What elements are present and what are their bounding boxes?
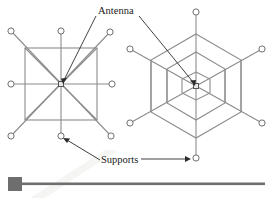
- support-node: [107, 29, 113, 35]
- support-node: [259, 46, 265, 52]
- support-node: [193, 9, 199, 15]
- hexagon-spoke-nw: [130, 49, 196, 86]
- hexagon-spoke-ne: [196, 49, 262, 86]
- support-node: [108, 133, 114, 139]
- supports-label: Supports: [101, 154, 138, 165]
- support-node: [193, 155, 199, 161]
- rule-bar: [22, 183, 265, 186]
- left-diagram-square-layout: [8, 28, 115, 139]
- support-node: [127, 120, 133, 126]
- rule-end-block: [8, 177, 22, 191]
- figure-canvas: Antenna Supports: [0, 0, 272, 199]
- antenna-label: Antenna: [98, 5, 134, 16]
- supports-leader-left-arrowhead: [63, 138, 70, 143]
- right-diagram-hexagon-layout: [127, 9, 265, 161]
- support-node: [127, 46, 133, 52]
- supports-leader-right-arrowhead: [185, 156, 191, 162]
- antenna-leader-right: [139, 16, 193, 82]
- support-node: [109, 81, 115, 87]
- hexagon-spoke-sw: [130, 86, 196, 123]
- supports-leader-left: [67, 140, 100, 160]
- support-node: [58, 28, 64, 34]
- hexagon-spoke-se: [196, 86, 262, 123]
- support-node: [259, 120, 265, 126]
- support-node: [8, 81, 14, 87]
- support-node: [8, 28, 14, 34]
- supports-callout: Supports: [63, 138, 191, 165]
- support-node: [8, 133, 14, 139]
- antenna-support-figure: Antenna Supports: [0, 0, 272, 199]
